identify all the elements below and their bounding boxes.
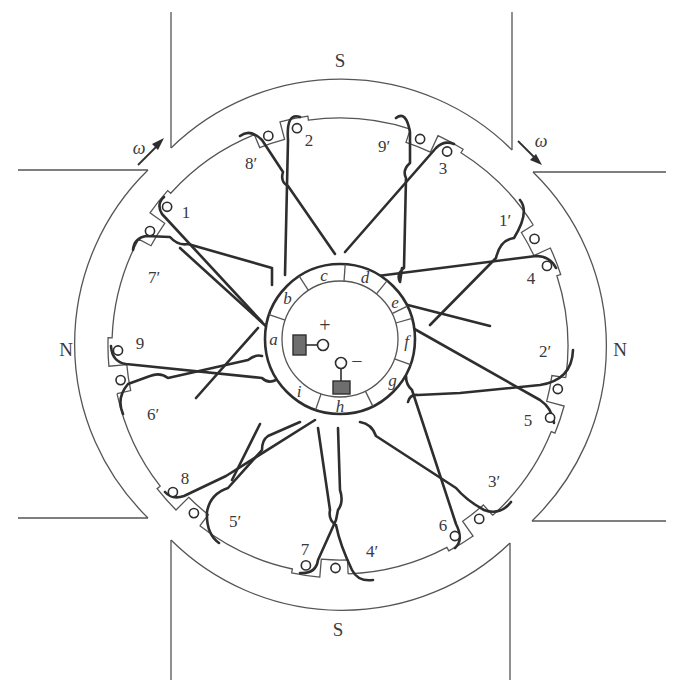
slot-label-3p: 3′ bbox=[488, 472, 500, 491]
coil-terminal-icon bbox=[163, 202, 172, 211]
slot-label-9p: 9′ bbox=[378, 137, 390, 156]
commutator-segment-label-i: i bbox=[297, 382, 302, 401]
commutator-segment-label-g: g bbox=[388, 371, 397, 390]
slot-label-1p: 1′ bbox=[499, 211, 511, 230]
svg-text:ω: ω bbox=[535, 131, 548, 151]
pole-label-top: S bbox=[335, 50, 346, 71]
slot-label-8: 8 bbox=[181, 469, 190, 488]
slot-label-4p: 4′ bbox=[366, 542, 378, 561]
slot-label-5: 5 bbox=[524, 411, 533, 430]
slot-label-2p: 2′ bbox=[539, 342, 551, 361]
svg-text:ω: ω bbox=[133, 138, 146, 158]
coil-terminal-icon bbox=[530, 234, 539, 243]
slot-label-2: 2 bbox=[305, 131, 314, 150]
coil-terminal-icon bbox=[264, 131, 273, 140]
slot-label-8p: 8′ bbox=[245, 154, 257, 173]
commutator-segment-label-c: c bbox=[320, 266, 328, 285]
coil-terminal-icon bbox=[113, 346, 122, 355]
dc-machine-winding-diagram: abcdefghi + − S S N N ω ω 8′ 2 9′ 3 1′ 4… bbox=[0, 0, 674, 699]
coil-terminal-icon bbox=[546, 413, 555, 422]
slot-label-6: 6 bbox=[439, 516, 448, 535]
coil-terminal-icon bbox=[301, 561, 310, 570]
coil-terminal-icon bbox=[292, 124, 301, 133]
coil-terminal-icon bbox=[450, 531, 459, 540]
slot-label-1: 1 bbox=[182, 203, 191, 222]
coil-terminal-icon bbox=[331, 563, 340, 572]
slot-label-9: 9 bbox=[136, 334, 145, 353]
slot-label-4: 4 bbox=[527, 269, 536, 288]
commutator-segment-label-a: a bbox=[269, 330, 278, 349]
slot-label-3: 3 bbox=[439, 159, 448, 178]
coil-terminal-icon bbox=[416, 134, 425, 143]
coil-terminal-icon bbox=[145, 227, 154, 236]
coil-terminal-icon bbox=[443, 147, 452, 156]
rotation-arrow-right: ω bbox=[518, 131, 547, 165]
negative-sign: − bbox=[351, 350, 362, 372]
slot-label-5p: 5′ bbox=[229, 512, 241, 531]
pole-label-right: N bbox=[613, 339, 627, 360]
coil-terminal-icon bbox=[189, 508, 198, 517]
commutator-segment-label-d: d bbox=[361, 268, 370, 287]
coil-terminal-icon bbox=[475, 514, 484, 523]
coil-terminal-icon bbox=[542, 261, 551, 270]
commutator-segment-label-h: h bbox=[336, 397, 345, 416]
coil-terminal-icon bbox=[168, 488, 177, 497]
slot-label-7: 7 bbox=[301, 540, 310, 559]
pole-label-bottom: S bbox=[333, 619, 344, 640]
slot-label-6p: 6′ bbox=[147, 405, 159, 424]
rotation-arrow-left: ω bbox=[133, 138, 164, 165]
coil-terminal-icon bbox=[116, 376, 125, 385]
pole-label-left: N bbox=[59, 339, 73, 360]
coil-terminal-icon bbox=[553, 384, 562, 393]
slot-label-7p: 7′ bbox=[148, 268, 160, 287]
positive-sign: + bbox=[319, 314, 330, 336]
commutator-segment-label-b: b bbox=[283, 289, 292, 308]
commutator-segment-label-e: e bbox=[391, 293, 399, 312]
